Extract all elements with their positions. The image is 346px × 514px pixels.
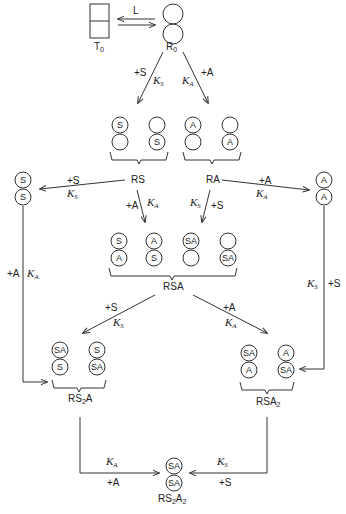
svg-text:SA: SA: [168, 461, 180, 471]
svg-text:RS2A2: RS2A2: [158, 493, 186, 505]
s2-to-rs2a-transition: +A KA: [7, 206, 47, 382]
svg-text:KA: KA: [181, 74, 194, 88]
rsa-to-rs2a-transition: +S KS: [83, 295, 155, 333]
svg-text:KS: KS: [66, 187, 78, 201]
svg-text:KA: KA: [146, 196, 159, 210]
svg-text:+A: +A: [259, 175, 272, 186]
svg-text:SA: SA: [91, 362, 103, 372]
svg-text:+A: +A: [7, 268, 20, 279]
svg-text:R0: R0: [166, 41, 177, 53]
s2-state: S S: [15, 172, 31, 205]
rs-to-rsa-transition: +A KA: [126, 190, 159, 222]
svg-text:T0: T0: [94, 41, 104, 53]
svg-text:KA: KA: [224, 316, 237, 330]
svg-text:S: S: [154, 137, 160, 147]
rsa-to-rsa2-transition: +A KA: [193, 295, 267, 333]
ra-forms: A A RA: [183, 117, 241, 185]
svg-text:A: A: [283, 348, 289, 358]
ra-to-a2-transition: +A KA: [222, 175, 309, 201]
svg-text:SA: SA: [222, 253, 234, 263]
r0-to-rs-transition: +S KS: [134, 52, 164, 103]
rsa2-to-rs2a2-transition: KS +S: [190, 417, 267, 488]
svg-text:+S: +S: [328, 278, 341, 289]
svg-text:S: S: [57, 362, 63, 372]
svg-text:A: A: [246, 365, 252, 375]
svg-text:+S: +S: [219, 477, 232, 488]
svg-text:S: S: [116, 236, 122, 246]
svg-text:S: S: [94, 345, 100, 355]
rsa-forms: S A A S SA SA RSA: [109, 233, 237, 292]
svg-text:KA: KA: [255, 187, 268, 201]
svg-text:A: A: [321, 192, 327, 202]
svg-text:KS: KS: [216, 455, 228, 469]
r0-to-ra-transition: +A KA: [181, 52, 214, 103]
svg-text:KA: KA: [26, 267, 39, 281]
svg-text:KS: KS: [152, 74, 164, 88]
t0-r0-equilibrium: L: [118, 5, 155, 25]
rs2a-forms: SA S S SA RS2A: [52, 342, 106, 405]
t0-state: T0: [90, 4, 109, 53]
rsa2-forms: SA A A SA RSA2: [240, 345, 294, 408]
svg-text:+S: +S: [211, 200, 224, 211]
svg-text:S: S: [117, 120, 123, 130]
svg-text:KS: KS: [306, 277, 318, 291]
svg-text:SA: SA: [54, 345, 66, 355]
svg-text:RA: RA: [206, 174, 220, 185]
svg-text:S: S: [151, 253, 157, 263]
r0-state: R0: [163, 4, 183, 53]
a2-state: A A: [316, 172, 332, 205]
svg-text:RSA2: RSA2: [256, 396, 281, 408]
svg-text:SA: SA: [243, 348, 255, 358]
svg-text:+A: +A: [201, 67, 214, 78]
binding-scheme-diagram: T0 L R0 +S KS +A KA S S RS A A R: [0, 0, 346, 514]
svg-text:A: A: [190, 120, 196, 130]
svg-text:+S: +S: [67, 175, 80, 186]
svg-text:+A: +A: [107, 477, 120, 488]
rs-to-s2-transition: +S KS: [40, 175, 125, 201]
svg-text:S: S: [20, 192, 26, 202]
rs-forms: S S RS: [110, 117, 168, 185]
svg-text:+A: +A: [223, 302, 236, 313]
svg-text:RS2A: RS2A: [68, 393, 93, 405]
svg-text:RSA: RSA: [163, 281, 184, 292]
svg-text:KS: KS: [112, 316, 124, 330]
svg-text:KA: KA: [105, 455, 118, 469]
svg-text:A: A: [227, 137, 233, 147]
svg-text:SA: SA: [185, 236, 197, 246]
svg-text:A: A: [151, 236, 157, 246]
svg-text:KS: KS: [189, 196, 201, 210]
svg-text:RS: RS: [131, 174, 145, 185]
svg-text:A: A: [321, 175, 327, 185]
svg-text:SA: SA: [280, 365, 292, 375]
rs2a-to-rs2a2-transition: KA +A: [80, 417, 159, 488]
svg-text:S: S: [20, 175, 26, 185]
a2-to-rsa2-transition: KS +S: [300, 206, 341, 369]
svg-text:+A: +A: [126, 200, 139, 211]
svg-text:A: A: [116, 253, 122, 263]
svg-text:L: L: [133, 5, 139, 16]
rs2a2-state: SA SA RS2A2: [158, 458, 186, 505]
svg-text:+S: +S: [105, 302, 118, 313]
svg-text:SA: SA: [168, 478, 180, 488]
svg-text:+S: +S: [134, 67, 147, 78]
ra-to-rsa-transition: KS +S: [189, 190, 224, 222]
